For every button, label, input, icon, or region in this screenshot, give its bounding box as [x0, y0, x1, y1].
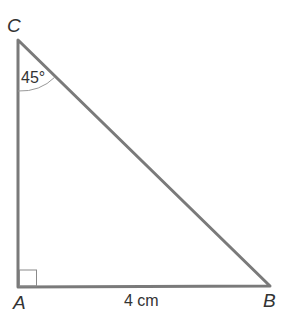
side-label-ab: 4 cm: [124, 293, 159, 309]
angle-label-c: 45°: [21, 70, 45, 86]
vertex-label-a: A: [13, 293, 26, 312]
triangle-abc: [18, 40, 270, 287]
triangle-diagram: [0, 0, 283, 318]
vertex-label-b: B: [263, 291, 276, 310]
right-angle-marker: [20, 270, 37, 286]
vertex-label-c: C: [7, 16, 21, 35]
